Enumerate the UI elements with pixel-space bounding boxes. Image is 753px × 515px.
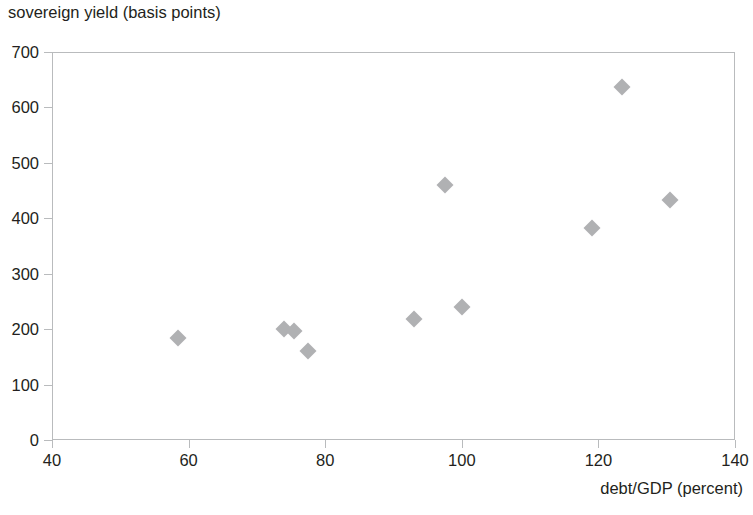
x-axis-tick-label: 120 (585, 452, 613, 469)
y-axis-tick-label: 0 (30, 432, 39, 449)
y-axis-tick (44, 107, 52, 108)
y-axis-tick-label: 700 (11, 44, 39, 61)
x-axis-tick-label: 80 (316, 452, 334, 469)
x-axis-tick-label: 40 (43, 452, 61, 469)
y-axis-title: sovereign yield (basis points) (8, 2, 221, 22)
y-axis-tick (44, 385, 52, 386)
x-axis-tick-label: 140 (721, 452, 749, 469)
x-axis-tick (735, 440, 736, 448)
y-axis-tick-label: 100 (11, 377, 39, 394)
y-axis-tick (44, 329, 52, 330)
x-axis-tick (325, 440, 326, 448)
x-axis-tick-label: 60 (179, 452, 197, 469)
y-axis-tick-label: 200 (11, 321, 39, 338)
y-axis-tick-label: 500 (11, 155, 39, 172)
y-axis-tick (44, 218, 52, 219)
x-axis-title: debt/GDP (percent) (600, 478, 743, 498)
y-axis-tick-label: 600 (11, 99, 39, 116)
x-axis-tick (598, 440, 599, 448)
plot-area (52, 52, 735, 440)
y-axis-tick (44, 163, 52, 164)
y-axis-tick-label: 300 (11, 266, 39, 283)
y-axis-tick (44, 274, 52, 275)
y-axis-tick (44, 440, 52, 441)
x-axis-tick (462, 440, 463, 448)
y-axis-tick (44, 52, 52, 53)
x-axis-tick (52, 440, 53, 448)
y-axis-tick-label: 400 (11, 210, 39, 227)
x-axis-tick-label: 100 (448, 452, 476, 469)
x-axis-tick (189, 440, 190, 448)
scatter-chart: sovereign yield (basis points) 010020030… (0, 0, 753, 515)
